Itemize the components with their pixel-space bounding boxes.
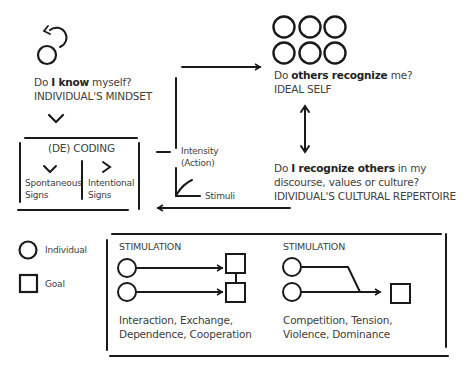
legend-goal-label: Goal	[45, 278, 65, 290]
others-question-suffix: me?	[388, 69, 413, 81]
self-reflect-icon	[38, 26, 66, 64]
others-question-bold: others recognize	[291, 69, 387, 81]
others-question: Do others recognize me?	[274, 69, 412, 82]
chevron-right-icon-intentional	[103, 162, 110, 172]
others-circles-grid	[274, 17, 346, 64]
intentional-label-1: Intentional	[88, 177, 134, 189]
legend-goal-icon	[20, 275, 37, 292]
cooperation-desc-1: Interaction, Exchange,	[119, 314, 233, 327]
mindset-label: INDIVIDUAL'S MINDSET	[34, 90, 152, 103]
cultural-repertoire-label: IDIVIDUAL'S CULTURAL REPERTOIRE	[274, 190, 456, 203]
spontaneous-label-2: Signs	[25, 189, 48, 201]
stimulation-right-title: STIMULATION	[283, 240, 345, 253]
action-label: (Action)	[181, 157, 215, 169]
recognize-question-bold: I recognize others	[291, 162, 394, 174]
coding-title: (DE) CODING	[48, 142, 115, 155]
stimulation-left-title: STIMULATION	[119, 240, 181, 253]
cooperation-desc-2: Dependence, Cooperation	[119, 328, 252, 341]
intentional-label-2: Signs	[88, 189, 111, 201]
others-question-prefix: Do	[274, 69, 291, 81]
recognize-question-suffix: in my	[395, 162, 427, 174]
legend-individual-icon	[20, 242, 37, 259]
self-question-prefix: Do	[34, 76, 51, 88]
stimuli-label: Stimuli	[205, 190, 235, 202]
cooperation-diagram	[118, 254, 245, 302]
chevron-down-icon-spontaneous	[44, 166, 56, 172]
recognize-question: Do I recognize others in my	[274, 162, 426, 175]
recognize-question-prefix: Do	[274, 162, 291, 174]
competition-diagram	[283, 258, 410, 303]
intensity-stimuli-chart	[176, 168, 200, 196]
recognize-line2: discourse, values or culture?	[274, 176, 419, 189]
chevron-down-icon	[49, 115, 63, 122]
self-question-bold: I know	[51, 76, 89, 88]
self-question-suffix: myself?	[89, 76, 131, 88]
ideal-self-label: IDEAL SELF	[274, 83, 331, 96]
self-question: Do I know myself?	[34, 76, 131, 89]
spontaneous-label-1: Spontaneous	[25, 177, 82, 189]
double-arrow-icon	[301, 106, 309, 152]
competition-desc-2: Violence, Dominance	[283, 328, 390, 341]
legend-individual-label: Individual	[45, 244, 87, 256]
competition-desc-1: Competition, Tension,	[283, 314, 392, 327]
intensity-label: Intensity	[181, 145, 218, 157]
